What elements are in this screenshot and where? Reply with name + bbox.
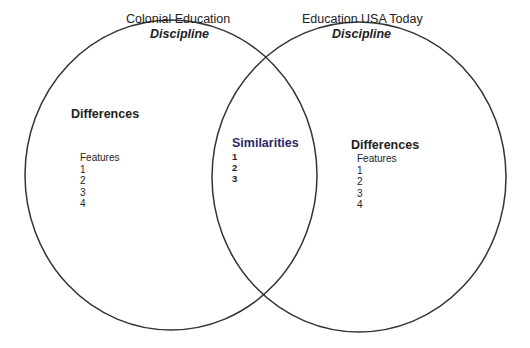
right-circle-subtitle: Discipline	[332, 27, 391, 41]
right-differences-heading: Differences	[351, 138, 419, 152]
right-features-heading: Features	[357, 153, 396, 165]
similarity-item: 2	[232, 162, 237, 173]
left-feature-item: 1	[80, 164, 119, 176]
right-feature-item: 1	[357, 165, 396, 177]
left-circle-title: Colonial Education	[126, 12, 230, 26]
right-circle-title: Education USA Today	[302, 12, 423, 26]
similarity-item: 3	[232, 173, 237, 184]
right-feature-item: 4	[357, 199, 396, 211]
left-feature-item: 4	[80, 198, 119, 210]
left-feature-item: 2	[80, 175, 119, 187]
left-differences-heading: Differences	[71, 107, 139, 121]
left-circle	[25, 20, 317, 330]
similarities-list: 1 2 3	[232, 151, 237, 184]
right-feature-item: 3	[357, 188, 396, 200]
right-features-list: Features 1 2 3 4	[357, 153, 396, 211]
similarity-item: 1	[232, 151, 237, 162]
left-features-heading: Features	[80, 152, 119, 164]
left-features-list: Features 1 2 3 4	[80, 152, 119, 210]
right-feature-item: 2	[357, 176, 396, 188]
left-circle-subtitle: Discipline	[150, 27, 209, 41]
similarities-heading: Similarities	[232, 136, 299, 150]
left-feature-item: 3	[80, 187, 119, 199]
